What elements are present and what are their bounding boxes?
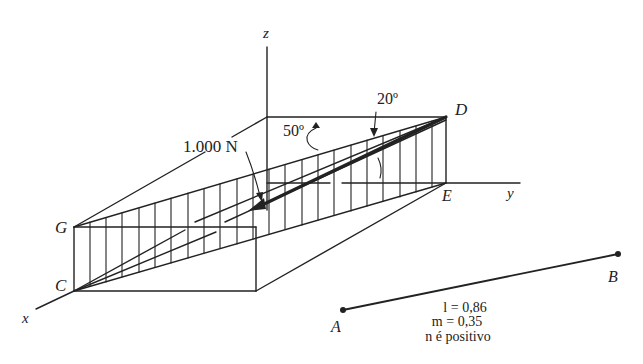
angle-50-label: 50º: [283, 122, 304, 139]
point-label-a: A: [330, 318, 341, 335]
point-b: [615, 251, 621, 257]
leader-arrowhead: [256, 192, 263, 202]
cosine-n: n é positivo: [425, 329, 490, 344]
point-label-c: C: [55, 276, 67, 295]
x-axis-label: x: [21, 310, 29, 326]
plane-top-edge: [74, 117, 446, 227]
point-label-b: B: [608, 268, 618, 285]
plane-bottom-edge: [74, 183, 446, 291]
angle-20-arc: [378, 158, 381, 178]
cosine-m: m = 0,35: [432, 314, 482, 329]
line-c-d-lower: [74, 232, 216, 291]
line-c-d-upper: [195, 117, 446, 222]
point-a: [340, 307, 346, 313]
angle-50-arrowhead: [312, 122, 320, 128]
line-c-d-upper: [74, 230, 185, 291]
point-label-e: E: [441, 187, 452, 204]
z-axis-label: z: [262, 25, 269, 41]
y-axis-label: y: [505, 185, 514, 201]
point-label-d: D: [454, 100, 468, 119]
angle-50-arc: [307, 128, 318, 150]
cosine-l: l = 0,86: [443, 300, 486, 315]
angle-20-arrowhead: [370, 128, 378, 137]
box-edge-top-left: [232, 117, 267, 137]
force-label: 1.000 N: [183, 137, 238, 156]
vector-diagram: z y x D E G C A B 1.000 N 50º 20º l = 0,…: [0, 0, 643, 364]
point-label-g: G: [55, 218, 67, 237]
force-arrowhead: [248, 198, 266, 211]
angle-20-label: 20º: [377, 90, 398, 107]
